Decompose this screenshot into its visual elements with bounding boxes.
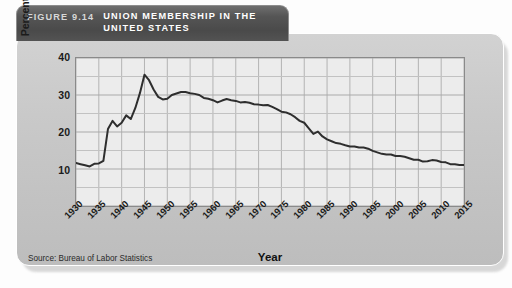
x-axis-ticks: 1930193519401945195019551960196519701975… xyxy=(0,0,512,288)
x-tick-label: 1955 xyxy=(177,198,200,221)
x-tick-label: 2000 xyxy=(383,198,406,221)
x-tick-label: 2010 xyxy=(429,198,452,221)
x-tick-label: 1940 xyxy=(108,198,131,221)
x-tick-label: 1950 xyxy=(154,198,177,221)
x-tick-label: 1935 xyxy=(85,198,108,221)
x-tick-label: 1985 xyxy=(314,198,337,221)
x-tick-label: 1970 xyxy=(246,198,269,221)
x-tick-label: 1945 xyxy=(131,198,154,221)
x-tick-label: 2015 xyxy=(452,198,475,221)
x-tick-label: 2005 xyxy=(406,198,429,221)
source-note: Source: Bureau of Labor Statistics xyxy=(28,254,152,263)
x-tick-label: 1965 xyxy=(223,198,246,221)
figure-container: FIGURE 9.14 UNION MEMBERSHIP IN THE UNIT… xyxy=(0,0,512,288)
x-tick-label: 1980 xyxy=(291,198,314,221)
x-tick-label: 1930 xyxy=(62,198,85,221)
x-tick-label: 1960 xyxy=(200,198,223,221)
x-tick-label: 1995 xyxy=(360,198,383,221)
x-tick-label: 1990 xyxy=(337,198,360,221)
x-tick-label: 1975 xyxy=(268,198,291,221)
x-axis-title: Year xyxy=(180,251,360,263)
